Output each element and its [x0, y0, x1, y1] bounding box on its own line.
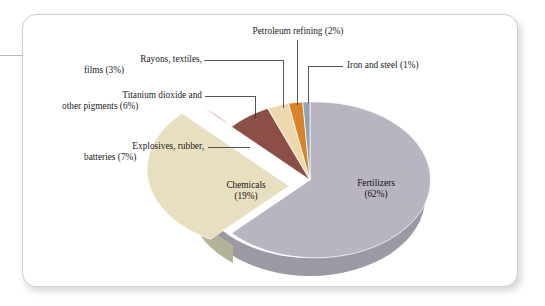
leader-line-iron-and-steel	[308, 66, 343, 103]
callout-label-rayons-line1: Rayons, textiles,	[84, 54, 202, 65]
callout-label-titanium-dioxide-line2: other pigments (6%)	[62, 101, 202, 112]
callout-label-titanium-dioxide-line1: Titanium dioxide and	[62, 90, 202, 101]
slice-label-chemicals: Chemicals	[205, 180, 287, 191]
callout-label-rayons-line2: films (3%)	[84, 65, 202, 76]
callout-label-petroleum-refining: Petroleum refining (2%)	[228, 26, 368, 37]
leader-line-titanium-dioxide	[205, 96, 255, 118]
slice-label-fertilizers: Fertilizers	[337, 178, 415, 189]
slice-label-fertilizers-percent: (62%)	[337, 189, 415, 200]
callout-label-iron-and-steel: Iron and steel (1%)	[347, 60, 467, 71]
slice-label-chemicals-percent: (19%)	[205, 191, 287, 202]
leader-line-rayons	[204, 60, 283, 108]
callout-label-explosives-line1: Explosives, rubber,	[84, 141, 204, 152]
pie-chart: Petroleum refining (2%) Iron and steel (…	[0, 0, 545, 306]
callout-label-explosives-line2: batteries (7%)	[84, 152, 204, 163]
screenshot-root: Petroleum refining (2%) Iron and steel (…	[0, 0, 545, 306]
pie-chart-svg	[0, 0, 545, 306]
